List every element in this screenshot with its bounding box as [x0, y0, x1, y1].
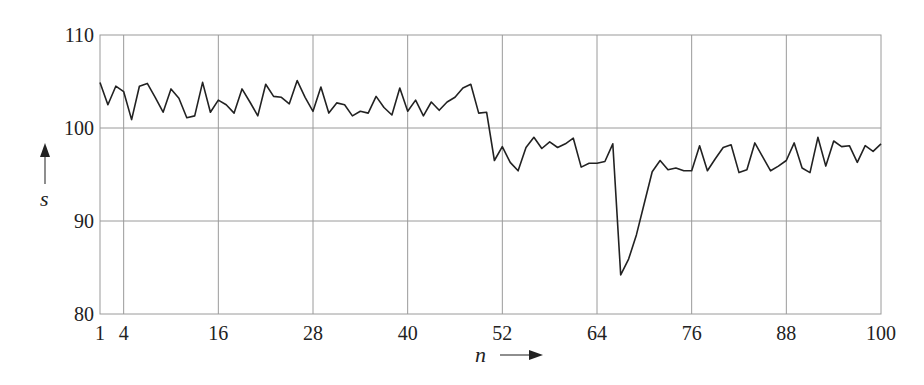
x-tick-label: 100	[866, 322, 896, 344]
plot-frame	[100, 35, 881, 314]
x-axis-label: n	[475, 342, 486, 367]
line-chart: 8090100110 1416284052647688100 s n	[0, 0, 924, 385]
x-tick-label: 4	[119, 322, 129, 344]
gridlines	[100, 35, 881, 314]
x-tick-label: 28	[303, 322, 323, 344]
x-axis-label-group: n	[475, 342, 543, 367]
x-tick-label: 16	[208, 322, 228, 344]
arrow-right-icon	[529, 350, 543, 360]
x-tick-label: 76	[682, 322, 702, 344]
x-tick-label: 64	[587, 322, 607, 344]
y-tick-label: 100	[64, 117, 94, 139]
x-tick-labels: 1416284052647688100	[95, 322, 896, 344]
y-tick-label: 110	[65, 24, 94, 46]
y-axis-label-group: s	[40, 143, 50, 211]
x-tick-label: 88	[776, 322, 796, 344]
y-axis-label: s	[40, 186, 49, 211]
data-series-line	[100, 81, 881, 275]
y-tick-label: 90	[74, 210, 94, 232]
y-tick-labels: 8090100110	[64, 24, 94, 325]
x-tick-label: 1	[95, 322, 105, 344]
x-tick-label: 40	[398, 322, 418, 344]
x-tick-label: 52	[492, 322, 512, 344]
arrow-up-icon	[40, 143, 50, 157]
y-tick-label: 80	[74, 303, 94, 325]
